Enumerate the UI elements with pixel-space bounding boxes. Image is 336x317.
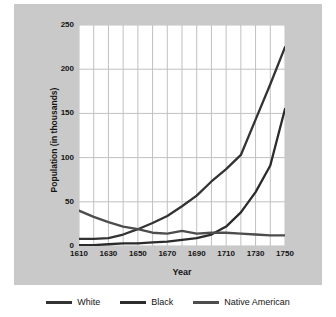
y-axis-tick-label: 100 (40, 153, 74, 162)
line-swatch-white-series (46, 301, 72, 304)
legend-item: Black (120, 297, 173, 307)
legend-label: Native American (224, 297, 290, 307)
y-axis-tick-label: 250 (40, 20, 74, 29)
line-swatch-native-american-series (193, 301, 219, 304)
x-axis-tick-label: 1690 (183, 249, 211, 258)
legend-item: Native American (193, 297, 290, 307)
y-axis-tick-label: 200 (40, 64, 74, 73)
x-axis-tick-label: 1650 (124, 249, 152, 258)
line-swatch-black-series (120, 301, 146, 304)
legend-item: White (46, 297, 100, 307)
grid-lines (79, 25, 285, 246)
x-axis-tick-label: 1750 (271, 249, 299, 258)
y-axis-tick-label: 150 (40, 108, 74, 117)
x-axis-tick-label: 1710 (212, 249, 240, 258)
x-axis-tick-label: 1610 (65, 249, 93, 258)
x-axis-tick-label: 1670 (153, 249, 181, 258)
x-axis-tick-label: 1730 (242, 249, 270, 258)
chart-figure: Population (in thousands) 05010015020025… (0, 0, 336, 317)
legend-label: White (77, 297, 100, 307)
x-axis-title: Year (79, 267, 285, 277)
y-axis-title-container: Population (in thousands) (36, 25, 50, 246)
chart-legend: WhiteBlackNative American (14, 291, 322, 313)
plot-area (79, 25, 285, 246)
legend-label: Black (151, 297, 173, 307)
x-axis-tick-label: 1630 (94, 249, 122, 258)
y-axis-tick-label: 50 (40, 197, 74, 206)
chart-plot-svg (79, 25, 285, 246)
